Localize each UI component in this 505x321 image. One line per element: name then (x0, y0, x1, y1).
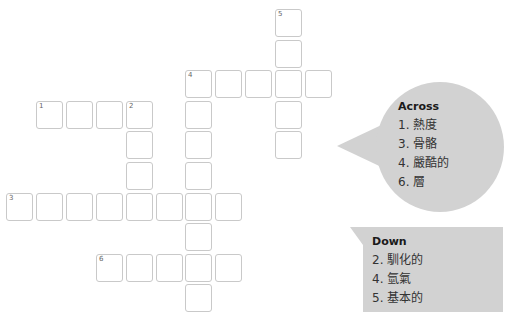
down-clues: Down 2. 馴化的 4. 氫氣 5. 基本的 (372, 235, 423, 308)
down-box-notch (0, 0, 505, 321)
down-clue-5: 5. 基本的 (372, 289, 423, 308)
down-clue-4: 4. 氫氣 (372, 270, 423, 289)
down-title: Down (372, 235, 423, 248)
down-clue-2: 2. 馴化的 (372, 251, 423, 270)
